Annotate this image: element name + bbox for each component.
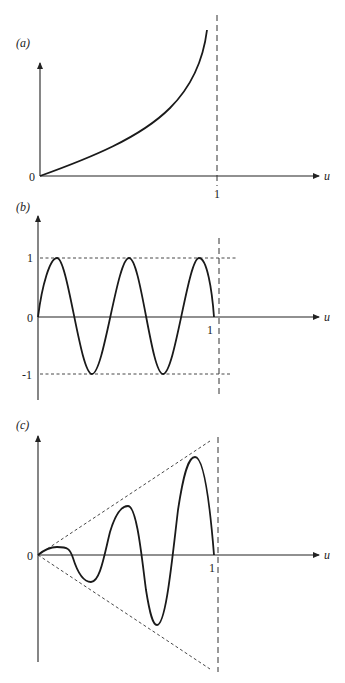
panel-c-x-tick-label: 1 <box>209 561 215 575</box>
panel-a-label: (a) <box>16 36 30 50</box>
panel-b-x-axis-label: u <box>324 310 330 324</box>
panel-c-curve <box>38 457 214 625</box>
panel-c-x-axis-label: u <box>324 548 330 562</box>
panel-b-y-tick-minus1: -1 <box>22 368 32 382</box>
panel-b-x-tick-label: 1 <box>207 323 213 337</box>
panel-b-curve <box>38 258 214 374</box>
panel-b-y-tick-1: 1 <box>27 251 33 265</box>
panel-c-origin-label: 0 <box>27 549 33 563</box>
panel-a: (a) 0 u 1 <box>16 15 330 201</box>
panel-a-origin-label: 0 <box>29 170 35 184</box>
panel-b-origin-label: 0 <box>27 311 33 325</box>
panel-c-lower-envelope <box>38 555 210 669</box>
figure-canvas: (a) 0 u 1 (b) 0 1 -1 u 1 (c) 0 u 1 <box>0 0 345 683</box>
panel-c-label: (c) <box>16 418 29 432</box>
panel-a-curve <box>40 30 207 176</box>
panel-b: (b) 0 1 -1 u 1 <box>16 200 330 400</box>
panel-c-upper-envelope <box>38 441 210 555</box>
panel-a-x-axis-label: u <box>324 169 330 183</box>
panel-a-x-tick-label: 1 <box>214 187 220 201</box>
panel-c: (c) 0 u 1 <box>16 418 330 672</box>
panel-b-label: (b) <box>16 200 30 214</box>
